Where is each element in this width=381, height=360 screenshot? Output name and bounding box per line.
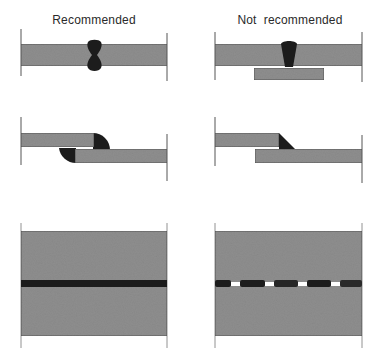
fillet-weld-lower [59,148,76,163]
plate-lower [75,149,167,163]
plate-upper [215,133,279,147]
butt-weld-not-recommended [215,32,362,82]
fillet-weld-triangle [279,133,295,149]
fillet-weld-upper [93,133,110,150]
weld-segment [240,280,265,287]
weld-diagram [0,0,381,360]
gap [231,282,240,286]
plate-lower [255,149,362,163]
butt-weld-recommended [21,29,167,81]
weld-segment [340,280,362,287]
weld-continuous [21,280,167,287]
plan-weld-recommended [21,223,167,348]
weld-segment [307,280,331,287]
weld-segment [215,280,231,287]
lap-weld-not-recommended [215,117,362,183]
lap-weld-recommended [21,117,167,181]
backing-strip [254,68,324,80]
weld-segment [274,280,298,287]
plate-upper [21,133,94,147]
plan-weld-not-recommended [215,223,362,348]
gap [298,282,307,286]
gap [265,282,274,286]
gap [331,282,340,286]
